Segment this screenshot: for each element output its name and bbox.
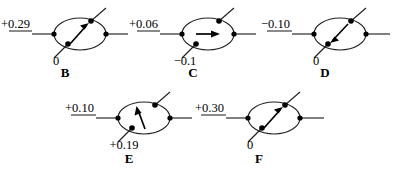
node-bottom bbox=[193, 41, 199, 47]
node-bottom bbox=[129, 125, 135, 131]
node-bottom bbox=[65, 41, 71, 47]
panel-F-graphic: +0.30 0 bbox=[196, 88, 330, 150]
node-left bbox=[245, 115, 250, 120]
node-top bbox=[88, 18, 94, 24]
panel-C-graphic: +0.06 −0.1 bbox=[130, 4, 258, 66]
top-tick-line bbox=[219, 8, 234, 21]
panel-B-graphic: +0.29 0 bbox=[2, 4, 130, 66]
panel-letter-C: C bbox=[158, 66, 228, 79]
node-left bbox=[311, 31, 316, 36]
node-top bbox=[152, 102, 158, 108]
bottom-value-label: 0 bbox=[247, 138, 253, 152]
ring-ellipse bbox=[118, 102, 170, 134]
top-tick-line bbox=[285, 92, 300, 105]
panel-letter-D: D bbox=[290, 66, 360, 79]
node-right bbox=[103, 31, 108, 36]
moment-arrow bbox=[330, 24, 348, 43]
panel-letter-F: F bbox=[224, 152, 294, 165]
node-bottom bbox=[325, 41, 331, 47]
top-tick-line bbox=[351, 8, 366, 21]
node-top bbox=[282, 102, 288, 108]
panel-D: −0.10 0 D bbox=[262, 4, 396, 82]
panel-F: +0.30 0 F bbox=[196, 88, 330, 166]
panel-D-graphic: −0.10 0 bbox=[262, 4, 396, 66]
node-top bbox=[348, 18, 354, 24]
moment-arrow bbox=[70, 23, 89, 44]
panel-E: +0.10 +0.19 E bbox=[66, 88, 194, 166]
ring-ellipse bbox=[314, 18, 366, 50]
top-tick-line bbox=[91, 8, 106, 21]
panel-letter-E: E bbox=[94, 152, 164, 165]
node-right bbox=[167, 115, 172, 120]
top-value-label: +0.06 bbox=[129, 17, 158, 31]
node-bottom bbox=[259, 125, 265, 131]
node-right bbox=[231, 31, 236, 36]
node-left bbox=[51, 31, 56, 36]
top-value-label: +0.10 bbox=[65, 101, 94, 115]
panel-C: +0.06 −0.1 C bbox=[130, 4, 258, 82]
node-right bbox=[297, 115, 302, 120]
node-left bbox=[179, 31, 184, 36]
top-tick-line bbox=[155, 92, 170, 105]
node-top bbox=[216, 18, 222, 24]
panel-letter-B: B bbox=[30, 66, 100, 79]
panel-E-graphic: +0.10 +0.19 bbox=[66, 88, 194, 150]
moment-arrow bbox=[196, 31, 220, 38]
bottom-value-label: +0.19 bbox=[110, 138, 139, 152]
top-value-label: +0.30 bbox=[195, 101, 224, 115]
node-left bbox=[115, 115, 120, 120]
panel-B: +0.29 0 B bbox=[2, 4, 130, 82]
moment-arrow bbox=[135, 106, 146, 129]
figure-root: +0.29 0 B +0.06 −0.1 C bbox=[0, 0, 401, 170]
top-value-label: +0.29 bbox=[1, 17, 30, 31]
top-value-label: −0.10 bbox=[261, 17, 290, 31]
moment-arrow bbox=[264, 107, 283, 128]
node-right bbox=[363, 31, 368, 36]
